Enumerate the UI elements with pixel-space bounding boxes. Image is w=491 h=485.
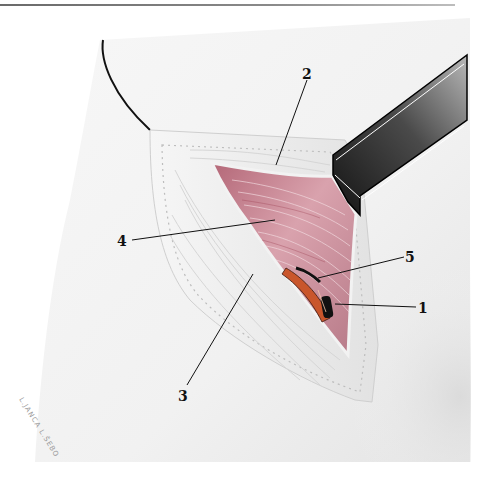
label-5: 5: [405, 250, 415, 264]
label-2: 2: [302, 67, 312, 81]
book-page: 1 2 3 4 5 L.JANCA L.ŠEBO: [0, 0, 491, 485]
label-3: 3: [178, 389, 188, 403]
illustration-artwork: [0, 0, 491, 485]
label-1: 1: [418, 301, 428, 315]
surgical-illustration: 1 2 3 4 5 L.JANCA L.ŠEBO: [0, 0, 491, 485]
label-4: 4: [117, 234, 127, 248]
